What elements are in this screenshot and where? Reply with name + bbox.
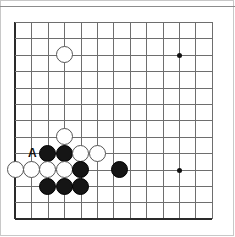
black-stone-c3-r10[interactable] <box>56 178 73 195</box>
grid-line-horizontal-6 <box>15 120 212 121</box>
go-diagram-screen: A <box>0 0 235 237</box>
grid-line-horizontal-7 <box>15 137 212 138</box>
white-stone-c5-r8[interactable] <box>89 145 106 162</box>
go-board[interactable]: A <box>0 0 235 237</box>
white-stone-c3-r9[interactable] <box>56 161 73 178</box>
grid-line-horizontal-3 <box>15 71 212 72</box>
black-stone-c3-r8[interactable] <box>56 145 73 162</box>
grid-line-horizontal-5 <box>15 104 212 105</box>
black-stone-c4-r9[interactable] <box>72 161 89 178</box>
grid-line-horizontal-2 <box>15 55 212 56</box>
white-stone-c3-upper[interactable] <box>56 46 73 63</box>
grid-line-horizontal-1 <box>15 38 212 39</box>
white-stone-c2-r9[interactable] <box>39 161 56 178</box>
grid-line-horizontal-11 <box>15 202 212 203</box>
grid-line-horizontal-4 <box>15 88 212 89</box>
black-stone-c64-r9[interactable] <box>111 161 128 178</box>
board-label-a: A <box>28 147 37 159</box>
star-point-lower-right <box>177 168 182 173</box>
star-point-upper-right <box>177 53 182 58</box>
grid-line-horizontal-0 <box>15 22 212 23</box>
white-stone-c4-r8[interactable] <box>72 145 89 162</box>
black-stone-c2-r10[interactable] <box>39 178 56 195</box>
grid-line-vertical-12 <box>212 22 213 219</box>
black-stone-c4-r10[interactable] <box>72 178 89 195</box>
white-stone-c0-r9[interactable] <box>7 161 24 178</box>
white-stone-c3-middle[interactable] <box>56 128 73 145</box>
black-stone-c2-r8[interactable] <box>39 145 56 162</box>
grid-line-horizontal-12 <box>15 218 212 220</box>
white-stone-c1-r9[interactable] <box>23 161 40 178</box>
